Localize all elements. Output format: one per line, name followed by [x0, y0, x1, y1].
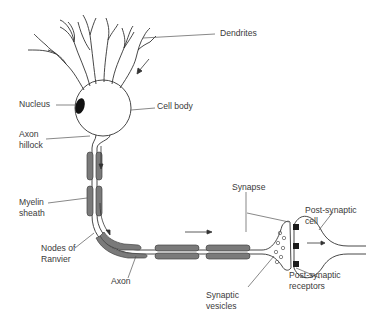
label-post-synaptic-cell: Post-synaptic cell [305, 205, 357, 226]
label-myelin-sheath: Myelin sheath [19, 197, 45, 218]
axon [92, 135, 262, 254]
presynaptic-terminal [262, 221, 291, 270]
label-cell-body: Cell body [157, 101, 193, 112]
neuron-diagram: Dendrites Nucleus Cell body Axon hillock… [0, 0, 376, 323]
label-synapse: Synapse [232, 182, 265, 193]
label-post-synaptic-receptors: Post-synaptic receptors [289, 270, 341, 291]
arrows [99, 59, 325, 245]
label-nodes-of-ranvier: Nodes of Ranvier [41, 243, 75, 264]
label-dendrites: Dendrites [220, 28, 257, 39]
label-synaptic-vesicles: Synaptic vesicles [206, 290, 239, 311]
label-axon: Axon [111, 276, 131, 287]
myelin-sheath [87, 152, 250, 259]
label-axon-hillock: Axon hillock [19, 129, 43, 150]
dendrites [28, 15, 156, 90]
label-nucleus: Nucleus [19, 99, 50, 110]
